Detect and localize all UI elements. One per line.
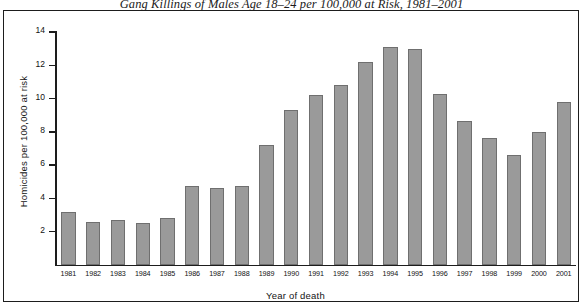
y-axis-tick: 2 xyxy=(49,231,55,232)
x-axis-tick-label: 1984 xyxy=(130,269,155,278)
bar[interactable] xyxy=(334,85,348,265)
y-axis-tick-label: 12 xyxy=(36,59,45,69)
bar[interactable] xyxy=(408,49,422,265)
bar-slot xyxy=(378,32,403,265)
bar[interactable] xyxy=(160,218,174,265)
x-axis-tick-label: 1991 xyxy=(304,269,329,278)
bar-slot xyxy=(106,32,131,265)
bar-slot xyxy=(452,32,477,265)
bar[interactable] xyxy=(309,95,323,265)
y-axis-title: Homicides per 100,000 at risk xyxy=(18,52,29,232)
bar-slot xyxy=(81,32,106,265)
bar-slot xyxy=(551,32,576,265)
y-axis-tick: 14 xyxy=(49,31,55,32)
y-axis-tick-label: 6 xyxy=(40,158,45,168)
bar[interactable] xyxy=(284,110,298,265)
bar-slot xyxy=(477,32,502,265)
chart-frame: Homicides per 100,000 at risk 2468101214… xyxy=(3,10,579,302)
y-axis-tick: 6 xyxy=(49,164,55,165)
x-axis-tick-label: 1996 xyxy=(427,269,452,278)
x-axis-tick-label: 1985 xyxy=(155,269,180,278)
x-axis-tick-label: 1987 xyxy=(205,269,230,278)
bar[interactable] xyxy=(482,138,496,265)
bar-slot xyxy=(205,32,230,265)
bar[interactable] xyxy=(86,222,100,265)
bar[interactable] xyxy=(259,145,273,265)
bar-slot xyxy=(328,32,353,265)
bar[interactable] xyxy=(61,212,75,265)
x-axis-tick-label: 1983 xyxy=(106,269,131,278)
x-axis-tick-label: 1981 xyxy=(56,269,81,278)
x-axis-tick-labels: 1981198219831984198519861987198819891990… xyxy=(56,269,576,278)
bar[interactable] xyxy=(433,94,447,265)
bar-slot xyxy=(527,32,552,265)
bar[interactable] xyxy=(557,102,571,265)
bar-slot xyxy=(304,32,329,265)
bar[interactable] xyxy=(532,132,546,265)
x-axis-title: Year of death xyxy=(4,290,583,301)
x-axis-tick-label: 1990 xyxy=(279,269,304,278)
bar-slot xyxy=(279,32,304,265)
y-axis-tick: 10 xyxy=(49,98,55,99)
chart-figure: Gang Killings of Males Age 18–24 per 100… xyxy=(0,0,583,305)
x-axis-tick-label: 1997 xyxy=(452,269,477,278)
x-axis-tick-label: 1988 xyxy=(229,269,254,278)
bar-slot xyxy=(56,32,81,265)
bar-slot xyxy=(254,32,279,265)
bar[interactable] xyxy=(235,186,249,265)
bar-series xyxy=(56,32,576,265)
bar-slot xyxy=(403,32,428,265)
y-axis-tick-label: 14 xyxy=(36,25,45,35)
y-axis-tick: 4 xyxy=(49,198,55,199)
bar-slot xyxy=(229,32,254,265)
bar-slot xyxy=(130,32,155,265)
y-axis-tick-label: 10 xyxy=(36,92,45,102)
y-axis-tick: 12 xyxy=(49,65,55,66)
x-axis-tick-label: 1993 xyxy=(353,269,378,278)
bar-slot xyxy=(427,32,452,265)
bar[interactable] xyxy=(210,188,224,265)
y-axis-tick-label: 2 xyxy=(40,225,45,235)
bar[interactable] xyxy=(507,155,521,265)
x-axis-tick-label: 1999 xyxy=(502,269,527,278)
bar[interactable] xyxy=(457,121,471,265)
bar[interactable] xyxy=(383,47,397,265)
x-axis-tick-label: 2001 xyxy=(551,269,576,278)
bar-slot xyxy=(155,32,180,265)
x-axis-tick-label: 1989 xyxy=(254,269,279,278)
y-axis-tick-label: 4 xyxy=(40,192,45,202)
bar-slot xyxy=(353,32,378,265)
x-axis-tick-label: 1982 xyxy=(81,269,106,278)
bar[interactable] xyxy=(358,62,372,265)
y-axis-tick-label: 8 xyxy=(40,125,45,135)
bar-slot xyxy=(502,32,527,265)
bar-slot xyxy=(180,32,205,265)
x-axis-tick-label: 2000 xyxy=(527,269,552,278)
bar[interactable] xyxy=(111,220,125,265)
x-axis-tick-label: 1998 xyxy=(477,269,502,278)
x-axis-tick-label: 1994 xyxy=(378,269,403,278)
bar[interactable] xyxy=(136,223,150,265)
y-axis-tick: 8 xyxy=(49,131,55,132)
bar[interactable] xyxy=(185,186,199,265)
x-axis-tick-label: 1986 xyxy=(180,269,205,278)
x-axis-tick-label: 1995 xyxy=(403,269,428,278)
x-axis-tick-label: 1992 xyxy=(328,269,353,278)
